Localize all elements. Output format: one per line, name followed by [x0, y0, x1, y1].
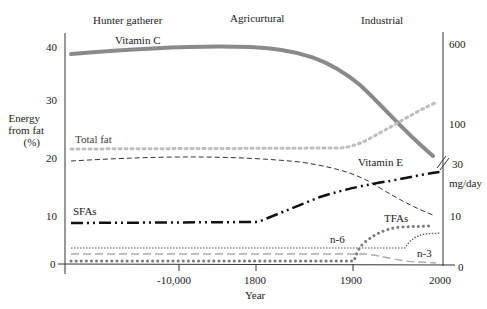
y-right-tick-10: 10	[450, 210, 461, 222]
y-axis-title-line1: Energy	[2, 112, 40, 124]
x-tick-label-2000: 2000	[429, 274, 451, 286]
series-total-fat	[71, 103, 435, 149]
y-right-tick-100: 100	[449, 118, 466, 130]
series-label-total-fat: Total fat	[75, 133, 112, 145]
x-tick-label-1800: 1800	[244, 274, 266, 286]
series-vitamin-c	[71, 46, 433, 156]
era-label-agricultural: Agricurtural	[230, 12, 284, 24]
x-tick-label-1900: 1900	[340, 274, 362, 286]
x-axis-title: Year	[245, 289, 265, 301]
axis-break-icon	[440, 158, 449, 170]
axis-break-icon	[437, 156, 446, 168]
series-n6	[71, 233, 440, 248]
y-right-tick-600: 600	[449, 38, 466, 50]
y-right-axis-unit: mg/day	[449, 177, 482, 189]
y-tick-30: 30	[46, 94, 57, 106]
y-tick-10: 10	[46, 210, 57, 222]
series-label-n3: n-3	[417, 247, 432, 259]
series-label-vitamin-e: Vitamin E	[358, 156, 403, 168]
x-tick-label-minus-10000: -10,000	[157, 274, 191, 286]
series-label-sfas: SFAs	[73, 205, 97, 217]
series-label-n6: n-6	[330, 233, 345, 245]
series-label-tfas: TFAs	[384, 212, 408, 224]
y-tick-20: 20	[46, 152, 57, 164]
era-label-industrial: Industrial	[361, 14, 403, 26]
y-right-tick-0: 0	[458, 261, 464, 273]
y-right-tick-30: 30	[452, 158, 463, 170]
era-label-hunter-gatherer: Hunter gatherer	[93, 14, 162, 26]
y-tick-0: 0	[50, 258, 56, 270]
y-axis-title-line2: from fat	[2, 124, 44, 136]
y-axis-title-line3: (%)	[2, 136, 40, 148]
chart-canvas	[0, 0, 487, 309]
series-label-vitamin-c: Vitamin C	[115, 34, 160, 46]
y-tick-40: 40	[46, 41, 57, 53]
